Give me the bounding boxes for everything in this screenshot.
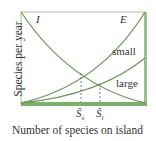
large-island-label: large	[116, 77, 138, 89]
immigration-label: I	[36, 13, 40, 25]
equilibrium-small-tick: Ŝs	[76, 107, 84, 122]
x-axis-label: Number of species on island	[12, 124, 143, 136]
equilibrium-large-tick: Ŝl	[96, 107, 103, 122]
immigration-curve	[21, 12, 145, 103]
x-axis	[21, 102, 147, 106]
extinction-small-curve	[21, 12, 145, 103]
small-island-label: small	[112, 45, 136, 57]
y-axis-label: Species per year	[12, 9, 24, 109]
extinction-label: E	[120, 13, 127, 25]
